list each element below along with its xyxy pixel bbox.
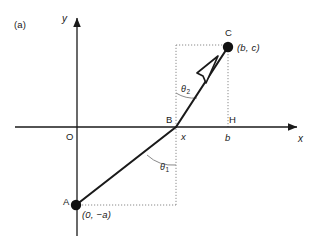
point-a-coord-label: (0, −a) [82, 210, 111, 220]
figure-container: (a) y x O A (0, −a) B x C (b, c) H b θ1 … [0, 0, 313, 244]
point-b-coord-label: x [181, 132, 186, 142]
point-b-label: B [166, 115, 173, 125]
point-c-label: C [225, 28, 232, 38]
angle-theta-2-label: θ2 [181, 85, 190, 94]
point-c-marker [223, 42, 233, 52]
theta-1-subscript: 1 [166, 166, 170, 173]
angle-theta-1-label: θ1 [160, 163, 169, 172]
theta-1-symbol: θ [160, 162, 165, 172]
diagram-canvas [0, 0, 313, 244]
point-a-marker [71, 200, 81, 210]
vector-arrowhead-icon [197, 56, 218, 83]
origin-label: O [66, 132, 74, 142]
point-h-coord-label: b [225, 133, 230, 143]
x-axis-label: x [298, 134, 303, 144]
theta-2-subscript: 2 [187, 88, 191, 95]
point-a-label: A [63, 197, 70, 207]
point-c-coord-label: (b, c) [237, 43, 260, 53]
theta-2-symbol: θ [181, 84, 186, 94]
y-axis-label: y [62, 14, 67, 24]
panel-label: (a) [14, 20, 26, 30]
point-h-label: H [229, 115, 236, 125]
